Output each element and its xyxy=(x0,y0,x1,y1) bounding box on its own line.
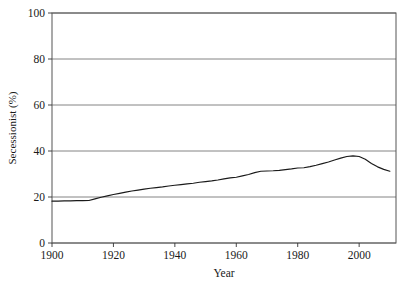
plot-background xyxy=(52,13,396,243)
y-tick-label-80: 80 xyxy=(34,53,46,65)
secessionist-line-chart: 020406080100 190019201940196019802000 Se… xyxy=(0,0,410,287)
x-tick-label-1900: 1900 xyxy=(41,249,64,261)
x-tick-label-1960: 1960 xyxy=(225,249,248,261)
y-tick-label-40: 40 xyxy=(34,145,46,157)
x-axis-ticks: 190019201940196019802000 xyxy=(41,243,371,261)
y-axis-title: Secessionist (%) xyxy=(6,91,19,164)
y-axis-ticks: 020406080100 xyxy=(28,7,52,249)
y-tick-label-60: 60 xyxy=(34,99,46,111)
x-tick-label-1940: 1940 xyxy=(163,249,186,261)
x-tick-label-1920: 1920 xyxy=(102,249,125,261)
y-tick-label-100: 100 xyxy=(28,7,46,19)
x-tick-label-2000: 2000 xyxy=(348,249,371,261)
x-tick-label-1980: 1980 xyxy=(286,249,309,261)
y-tick-label-20: 20 xyxy=(34,191,46,203)
x-axis-title: Year xyxy=(213,267,234,279)
y-tick-label-0: 0 xyxy=(39,237,45,249)
